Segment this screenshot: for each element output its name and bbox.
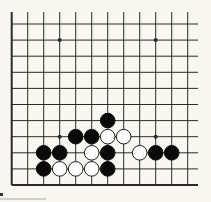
star-point-icon [154, 135, 158, 139]
white-stone [116, 129, 131, 144]
black-stone [148, 146, 163, 161]
star-point-icon [58, 135, 62, 139]
white-stone [84, 146, 99, 161]
white-stone [84, 162, 99, 177]
black-stone [52, 146, 67, 161]
black-stone [100, 162, 115, 177]
white-stone [100, 129, 115, 144]
scan-artifact-line [0, 198, 46, 200]
black-stone [164, 146, 179, 161]
black-stone [100, 113, 115, 128]
white-stone [52, 162, 67, 177]
go-board [0, 0, 211, 202]
star-point-icon [58, 38, 62, 42]
black-stone [68, 129, 83, 144]
black-stone [100, 146, 115, 161]
white-stone [132, 146, 147, 161]
black-stone [36, 162, 51, 177]
star-point-icon [154, 38, 158, 42]
white-stone [68, 162, 83, 177]
black-stone [84, 129, 99, 144]
black-stone [36, 146, 51, 161]
scan-artifact-mark [0, 193, 3, 196]
